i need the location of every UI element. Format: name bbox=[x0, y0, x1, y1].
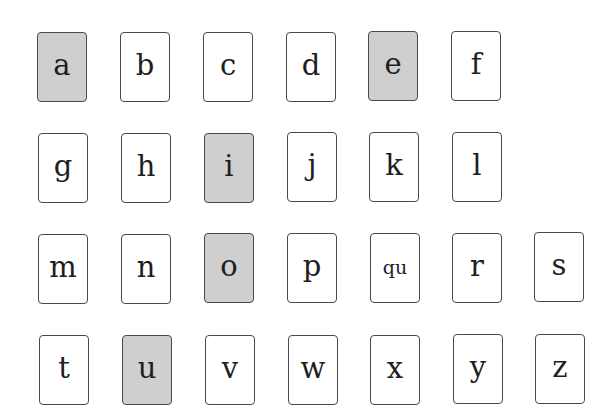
card-letter: j bbox=[308, 151, 317, 180]
letter-card-z[interactable]: z bbox=[535, 334, 585, 404]
letter-card-g[interactable]: g bbox=[38, 133, 88, 203]
letter-card-b[interactable]: b bbox=[120, 32, 170, 102]
card-letter: r bbox=[470, 252, 484, 281]
card-letter: c bbox=[220, 51, 236, 80]
card-letter: a bbox=[53, 51, 70, 80]
card-letter: g bbox=[54, 152, 73, 181]
letter-card-o[interactable]: o bbox=[204, 233, 254, 303]
card-letter: k bbox=[385, 151, 403, 180]
card-letter: t bbox=[58, 354, 70, 383]
card-letter: p bbox=[303, 252, 322, 281]
card-letter: e bbox=[384, 50, 401, 79]
letter-card-qu[interactable]: qu bbox=[370, 233, 420, 303]
card-letter: l bbox=[472, 151, 481, 180]
letter-card-a[interactable]: a bbox=[37, 32, 87, 102]
card-letter: u bbox=[138, 354, 157, 383]
letter-card-l[interactable]: l bbox=[452, 132, 502, 202]
letter-card-board: a b c d e f g h i j k l m n o p qu r s t… bbox=[0, 0, 612, 408]
letter-card-i[interactable]: i bbox=[204, 133, 254, 203]
letter-card-c[interactable]: c bbox=[203, 32, 253, 102]
letter-card-p[interactable]: p bbox=[287, 233, 337, 303]
letter-card-x[interactable]: x bbox=[370, 335, 420, 405]
card-letter: qu bbox=[383, 258, 407, 277]
letter-card-e[interactable]: e bbox=[368, 31, 418, 101]
card-letter: f bbox=[471, 50, 482, 79]
letter-card-m[interactable]: m bbox=[38, 234, 88, 304]
card-letter: s bbox=[552, 251, 567, 280]
letter-card-v[interactable]: v bbox=[205, 335, 255, 405]
card-letter: z bbox=[552, 353, 567, 382]
letter-card-r[interactable]: r bbox=[452, 233, 502, 303]
card-letter: i bbox=[224, 152, 233, 181]
letter-card-h[interactable]: h bbox=[121, 133, 171, 203]
card-letter: w bbox=[301, 354, 326, 383]
card-letter: h bbox=[137, 152, 156, 181]
card-letter: d bbox=[302, 51, 321, 80]
card-letter: y bbox=[470, 353, 486, 382]
letter-card-f[interactable]: f bbox=[451, 31, 501, 101]
letter-card-t[interactable]: t bbox=[39, 335, 89, 405]
card-letter: n bbox=[137, 253, 156, 282]
letter-card-u[interactable]: u bbox=[122, 335, 172, 405]
letter-card-s[interactable]: s bbox=[534, 232, 584, 302]
card-letter: o bbox=[220, 252, 237, 281]
card-letter: m bbox=[49, 253, 77, 282]
letter-card-n[interactable]: n bbox=[121, 234, 171, 304]
letter-card-k[interactable]: k bbox=[369, 132, 419, 202]
letter-card-y[interactable]: y bbox=[453, 334, 503, 404]
card-letter: v bbox=[222, 354, 238, 383]
letter-card-w[interactable]: w bbox=[288, 335, 338, 405]
letter-card-d[interactable]: d bbox=[286, 32, 336, 102]
card-letter: b bbox=[136, 51, 155, 80]
card-letter: x bbox=[387, 354, 403, 383]
letter-card-j[interactable]: j bbox=[287, 132, 337, 202]
